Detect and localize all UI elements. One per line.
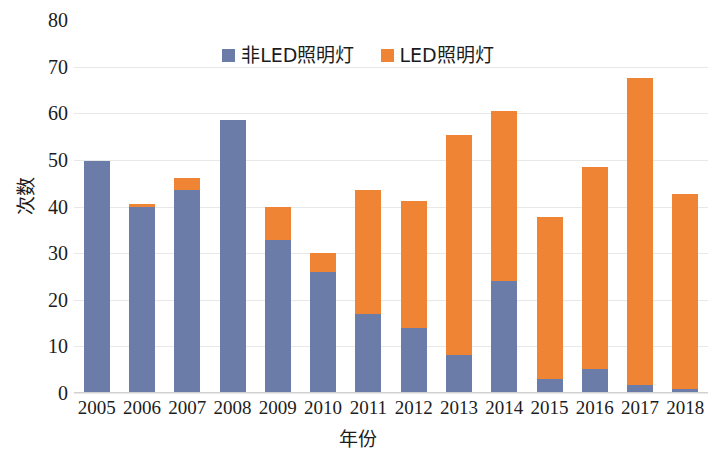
y-tick-label: 20 (24, 290, 68, 310)
y-axis-tick-labels: 80706050403020100 (8, 0, 68, 453)
bar-segment[interactable] (84, 161, 110, 393)
gridline (74, 253, 708, 254)
bar-segment[interactable] (491, 111, 517, 281)
bar-group[interactable] (84, 20, 110, 393)
bar-segment[interactable] (537, 217, 563, 379)
bar-group[interactable] (174, 20, 200, 393)
bar-segment[interactable] (129, 204, 155, 208)
bar-segment[interactable] (265, 240, 291, 393)
bar-segment[interactable] (265, 207, 291, 239)
y-tick-label: 50 (24, 150, 68, 170)
bar-segment[interactable] (355, 314, 381, 393)
bar-segment[interactable] (446, 355, 472, 393)
y-tick-label: 10 (24, 336, 68, 356)
bar-group[interactable] (401, 20, 427, 393)
bar-segment[interactable] (491, 281, 517, 393)
bar-group[interactable] (672, 20, 698, 393)
plot-area (74, 20, 708, 393)
stacked-bar-chart: 次数 80706050403020100 2005200620072008200… (0, 0, 716, 453)
y-tick-label: 80 (24, 10, 68, 30)
bar-segment[interactable] (401, 201, 427, 328)
bar-group[interactable] (627, 20, 653, 393)
gridline (74, 300, 708, 301)
bar-segment[interactable] (310, 272, 336, 393)
bar-group[interactable] (582, 20, 608, 393)
bar-group[interactable] (446, 20, 472, 393)
gridline (74, 207, 708, 208)
y-tick-label: 0 (24, 383, 68, 403)
bar-group[interactable] (537, 20, 563, 393)
x-axis-title: 年份 (0, 424, 716, 451)
bar-group[interactable] (220, 20, 246, 393)
bar-group[interactable] (310, 20, 336, 393)
x-axis-tick-labels: 2005200620072008200920102011201220132014… (74, 396, 708, 426)
gridline (74, 346, 708, 347)
bar-segment[interactable] (129, 207, 155, 393)
bar-segment[interactable] (537, 379, 563, 393)
bar-segment[interactable] (627, 78, 653, 384)
bar-group[interactable] (129, 20, 155, 393)
gridline (74, 160, 708, 161)
bar-segment[interactable] (401, 328, 427, 393)
bar-segment[interactable] (355, 190, 381, 314)
bar-group[interactable] (491, 20, 517, 393)
x-tick-label: 2018 (657, 396, 713, 420)
bar-segment[interactable] (582, 167, 608, 369)
bar-segment[interactable] (174, 178, 200, 190)
gridline (74, 67, 708, 68)
bar-segment[interactable] (310, 253, 336, 272)
bar-segment[interactable] (220, 120, 246, 393)
y-tick-label: 30 (24, 243, 68, 263)
bar-segment[interactable] (446, 135, 472, 355)
bar-segment[interactable] (582, 369, 608, 393)
bar-segment[interactable] (672, 194, 698, 389)
bar-group[interactable] (355, 20, 381, 393)
y-tick-label: 40 (24, 197, 68, 217)
gridline (74, 113, 708, 114)
y-tick-label: 70 (24, 57, 68, 77)
gridline (74, 393, 708, 394)
y-tick-label: 60 (24, 103, 68, 123)
bar-segment[interactable] (174, 190, 200, 393)
x-axis-line (74, 392, 708, 393)
bar-group[interactable] (265, 20, 291, 393)
